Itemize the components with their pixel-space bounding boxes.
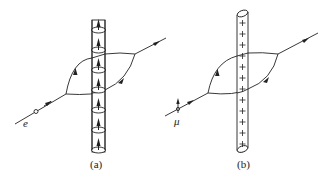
outgoing-arrowhead-icon — [153, 41, 160, 46]
caption-a: (a) — [90, 159, 102, 170]
particle-label-electron: e — [23, 118, 28, 129]
outgoing-electron-line — [135, 38, 166, 54]
incoming-muon-line — [165, 93, 208, 116]
panel-a — [15, 38, 166, 124]
outgoing-muon-line — [278, 33, 318, 54]
particle-label-muon: μ — [174, 116, 180, 127]
diagram-canvas — [0, 0, 331, 183]
solenoid-tube — [92, 19, 106, 153]
caption-b: (b) — [237, 159, 250, 170]
electron-marker-icon — [34, 110, 38, 114]
charged-rod — [236, 9, 248, 154]
outgoing-arrowhead-icon — [302, 38, 309, 43]
incoming-arrowhead-icon — [187, 100, 194, 105]
spin-up-arrowhead-icon — [176, 98, 179, 104]
